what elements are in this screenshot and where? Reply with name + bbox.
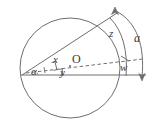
label-arc-z: z (109, 28, 113, 39)
center-point-marker (69, 65, 71, 67)
alpha-boundary-tick (44, 67, 45, 73)
label-center-o: O (72, 53, 81, 65)
figure-canvas (0, 0, 162, 126)
label-segment-y: y (60, 67, 65, 78)
label-segment-x: x (53, 54, 58, 65)
segment-x-tick-bottom (54, 70, 58, 71)
geometry-figure: a z w x y O α (0, 0, 162, 126)
label-angle-alpha: α (31, 66, 37, 77)
label-arc-w: w (120, 62, 127, 73)
arrow-top-icon (112, 7, 119, 15)
label-arc-a: a (134, 32, 140, 44)
